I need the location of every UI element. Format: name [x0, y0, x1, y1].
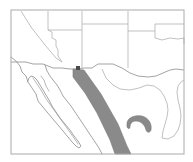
- site-marker[interactable]: [76, 66, 80, 70]
- map-figure: [0, 0, 193, 162]
- map-canvas[interactable]: [0, 0, 193, 162]
